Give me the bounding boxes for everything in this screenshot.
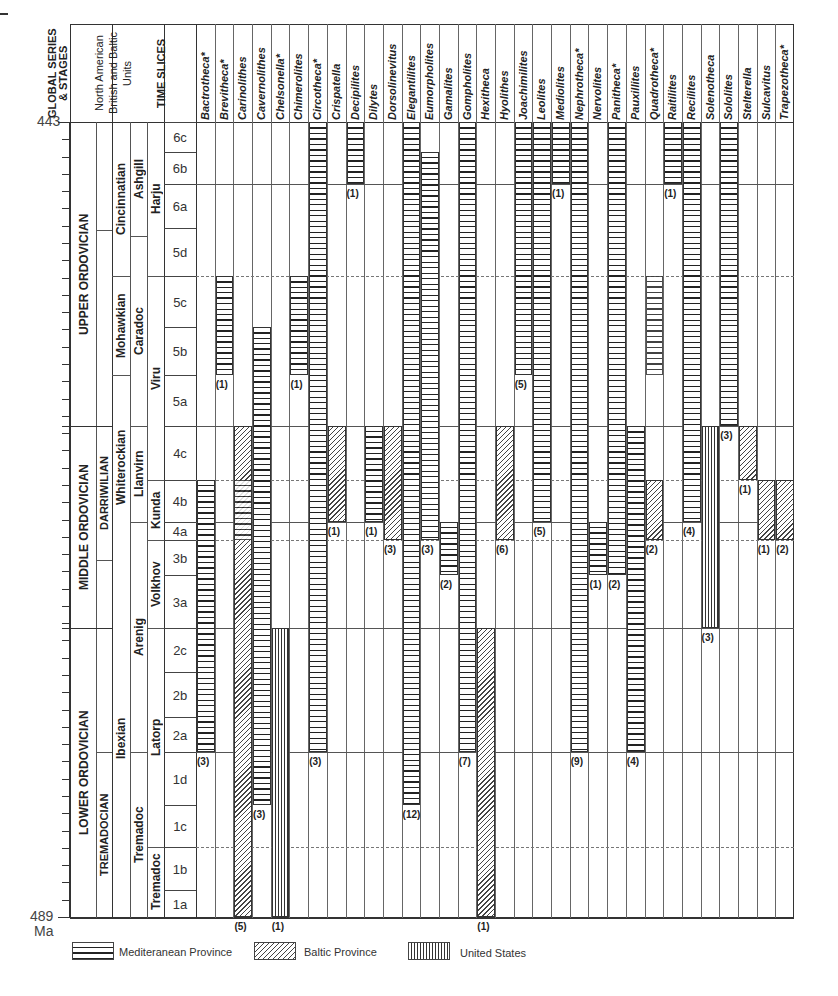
axis-tick: [62, 468, 70, 469]
genus-header-sulcavitus: Sulcavitus: [757, 26, 776, 120]
axis-tick: [62, 399, 70, 400]
genus-header-carinolithes: Carinolithes: [233, 26, 252, 120]
na-cincinnatian: Cincinnatian: [112, 122, 130, 276]
axis-tick: [62, 502, 70, 503]
specimen-count-quadrotheca: (2): [646, 544, 658, 555]
axis-tick: [62, 831, 70, 832]
genus-header-gamalites: Gamalites: [439, 26, 458, 120]
darriwilian-bottom: [96, 560, 112, 561]
range-bar-mediolites-med: [552, 122, 570, 184]
axis-tick: [62, 727, 70, 728]
axis-tick: [62, 243, 70, 244]
brit-caradoc: Caradoc: [130, 236, 147, 426]
axis-tick: [62, 226, 70, 227]
time-slice-3b: 3b: [164, 540, 196, 575]
axis-tick: [62, 208, 70, 209]
time-slice-2a: 2a: [164, 717, 196, 752]
axis-tick: [62, 381, 70, 382]
specimen-count-eumorpholites: (3): [421, 544, 433, 555]
brit-tremadoc: Tremadoc: [130, 752, 147, 917]
axis-tick: [62, 571, 70, 572]
range-bar-decipilites-med: [347, 122, 365, 184]
time-slice-6a: 6a: [164, 184, 196, 228]
specimen-count-pauxillites: (4): [627, 756, 639, 767]
range-bar-hexitheca-bal: [477, 628, 495, 917]
range-bar-bactrotheca-med: [197, 480, 215, 752]
axis-tick: [62, 157, 70, 158]
specimen-count-gamalites: (2): [440, 579, 452, 590]
specimen-count-gompholites: (7): [459, 756, 471, 767]
genus-header-pauxillites: Pauxillites: [626, 26, 645, 120]
series-lower-ordovician: LOWER ORDOVICIAN: [72, 628, 96, 917]
specimen-count-recilites: (4): [683, 526, 695, 537]
balt-kunda: Kunda: [147, 480, 164, 540]
specimen-count-leolites: (5): [533, 526, 545, 537]
specimen-count-chimerolites: (1): [290, 379, 302, 390]
axis-tick: [62, 796, 70, 797]
legend-label-mediterranean: Mediteranean Province: [119, 946, 232, 958]
time-slice-3a: 3a: [164, 575, 196, 628]
ma-bottom-label: 489: [30, 908, 53, 924]
time-slice-4b: 4b: [164, 480, 196, 522]
specimen-count-dilytes: (1): [365, 526, 377, 537]
genus-header-cavernolithes: Cavernolithes: [252, 26, 271, 120]
specimen-count-mediolites: (1): [552, 188, 564, 199]
stage-tremadocian: TREMADOCIAN: [96, 752, 112, 917]
genus-header-mediolites: Mediolites: [551, 26, 570, 120]
specimen-count-stelterella: (1): [739, 484, 751, 495]
balt-tremadoc: Tremadoc: [147, 847, 164, 917]
time-slice-5a: 5a: [164, 375, 196, 426]
range-bar-eumorpholites-med: [421, 152, 439, 540]
stage-darriwilian: DARRIWILIAN: [96, 426, 112, 560]
range-bar-chimerolites-med: [290, 276, 308, 375]
brit-arenig: Arenig: [130, 522, 147, 752]
balt-viru: Viru: [147, 276, 164, 480]
axis-tick: [62, 260, 70, 261]
genus-header-circotheca: Circotheca*: [308, 26, 327, 120]
axis-tick: [62, 675, 70, 676]
time-slice-1c: 1c: [164, 805, 196, 847]
axis-tick: [62, 623, 70, 624]
axis-tick: [62, 485, 70, 486]
range-bar-quadrotheca-med: [646, 276, 664, 375]
axis-tick: [62, 537, 70, 538]
range-bar-cavernolithes-med: [253, 327, 271, 805]
series-middle-ordovician: MIDDLE ORDOVICIAN: [72, 426, 96, 628]
axis-tick: [62, 347, 70, 348]
species-column-divider: [757, 24, 758, 918]
balt-volkhov: Volkhov: [147, 540, 164, 628]
axis-tick: [62, 900, 70, 901]
brit-ashgill: Ashgill: [130, 122, 147, 236]
axis-tick: [62, 692, 70, 693]
range-bar-pauxillites-med: [627, 426, 645, 752]
axis-tick: [62, 520, 70, 521]
species-column-divider: [588, 24, 589, 918]
specimen-count-panitheca: (2): [608, 579, 620, 590]
genus-header-quadrotheca: Quadrotheca*: [645, 26, 664, 120]
time-slice-1b: 1b: [164, 847, 196, 890]
axis-tick: [62, 744, 70, 745]
range-bar-quadrotheca-bal: [646, 480, 664, 540]
time-slice-6b: 6b: [164, 152, 196, 184]
genus-header-recilites: Recilites: [682, 26, 701, 120]
axis-tick: [62, 710, 70, 711]
stage-top-boundary: [96, 230, 112, 231]
axis-tick: [62, 865, 70, 866]
legend-swatch-united-states: [408, 942, 450, 960]
range-bar-hyolithes-bal: [496, 426, 514, 540]
axis-tick: [62, 658, 70, 659]
range-bar-sulcavitus-bal: [758, 480, 776, 540]
range-bar-leolites-med: [533, 122, 551, 522]
axis-tick: [62, 364, 70, 365]
axis-tick: [62, 589, 70, 590]
genus-header-crispatella: Crispatella: [327, 26, 346, 120]
range-bar-raitilites-med: [664, 122, 682, 184]
genus-header-chimerolites: Chimerolites: [289, 26, 308, 120]
legend-label-united-states: United States: [460, 947, 526, 959]
axis-tick: [62, 329, 70, 330]
genus-header-leolites: Leolites: [532, 26, 551, 120]
species-column-divider: [289, 24, 290, 918]
specimen-count-bactrotheca: (3): [197, 756, 209, 767]
range-bar-nephrotheca-med: [571, 122, 589, 752]
time-slice-6c: 6c: [164, 122, 196, 152]
